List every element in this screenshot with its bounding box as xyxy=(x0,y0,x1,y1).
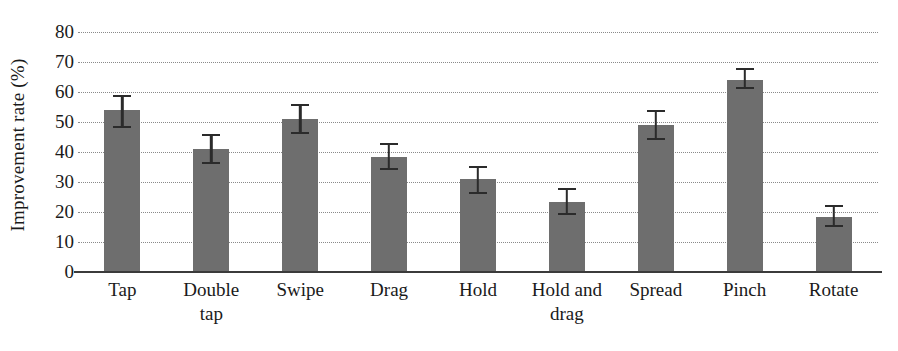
y-axis-title: Improvement rate (%) xyxy=(0,0,36,290)
bar-chart: Improvement rate (%) 80706050403020100 T… xyxy=(0,0,898,351)
error-bar-cap-bottom xyxy=(825,225,843,227)
error-bar-cap-top xyxy=(380,143,398,145)
x-axis-line xyxy=(74,271,882,273)
error-bar xyxy=(380,143,398,170)
error-bar-cap-top xyxy=(202,134,220,136)
x-tick-label-line2: drag xyxy=(512,302,622,326)
error-bar-cap-top xyxy=(113,95,131,97)
error-bar-cap-bottom xyxy=(113,126,131,128)
error-bar-stem xyxy=(388,143,390,170)
x-tick-label-line1: Tap xyxy=(108,279,136,300)
error-bar-cap-bottom xyxy=(291,132,309,134)
y-axis-ticks: 80706050403020100 xyxy=(38,0,74,300)
x-tick-label-line1: Hold and xyxy=(532,279,602,300)
plot-area xyxy=(78,28,878,272)
bar-group xyxy=(78,28,167,272)
x-tick-label-line1: Drag xyxy=(370,279,408,300)
bar xyxy=(282,119,318,272)
bar xyxy=(727,80,763,272)
error-bar-stem xyxy=(299,104,301,134)
y-tick-label: 60 xyxy=(38,82,74,101)
error-bar-cap-bottom xyxy=(202,162,220,164)
error-bar-cap-top xyxy=(825,205,843,207)
x-tick-label-line1: Swipe xyxy=(276,279,324,300)
x-tick-label-line1: Pinch xyxy=(723,279,766,300)
error-bar-stem xyxy=(566,188,568,215)
error-bar xyxy=(291,104,309,134)
error-bar-stem xyxy=(655,110,657,140)
bar xyxy=(371,157,407,273)
error-bar-cap-bottom xyxy=(647,138,665,140)
error-bar xyxy=(113,95,131,128)
error-bar-stem xyxy=(477,166,479,195)
bar-group xyxy=(167,28,256,272)
y-tick-label: 20 xyxy=(38,202,74,221)
y-axis-title-text: Improvement rate (%) xyxy=(7,59,29,232)
error-bar-cap-bottom xyxy=(469,192,487,194)
error-bar-cap-top xyxy=(647,110,665,112)
error-bar-cap-top xyxy=(469,166,487,168)
error-bar-cap-bottom xyxy=(558,213,576,215)
x-tick-label-line2: tap xyxy=(156,302,266,326)
error-bar xyxy=(202,134,220,164)
error-bar xyxy=(469,166,487,195)
bar xyxy=(638,125,674,272)
bar-group xyxy=(256,28,345,272)
y-tick-label: 70 xyxy=(38,52,74,71)
bar-group xyxy=(700,28,789,272)
x-tick-label-line1: Spread xyxy=(629,279,682,300)
bar-group xyxy=(434,28,523,272)
y-tick-label: 10 xyxy=(38,232,74,251)
bar xyxy=(193,149,229,272)
error-bar-cap-top xyxy=(736,68,754,70)
error-bar-cap-bottom xyxy=(736,87,754,89)
x-tick-label-line1: Hold xyxy=(459,279,497,300)
error-bar xyxy=(558,188,576,215)
error-bar-cap-bottom xyxy=(380,168,398,170)
error-bar-stem xyxy=(121,95,123,128)
x-tick-label-line1: Double xyxy=(183,279,239,300)
error-bar-cap-top xyxy=(291,104,309,106)
bar xyxy=(104,110,140,272)
y-tick-label: 30 xyxy=(38,172,74,191)
y-tick-label: 40 xyxy=(38,142,74,161)
bar-group xyxy=(611,28,700,272)
bar-group xyxy=(345,28,434,272)
error-bar-cap-top xyxy=(558,188,576,190)
bar-group xyxy=(789,28,878,272)
x-tick-label-line1: Rotate xyxy=(809,279,859,300)
bar-group xyxy=(522,28,611,272)
error-bar-stem xyxy=(210,134,212,164)
y-tick-label: 50 xyxy=(38,112,74,131)
error-bar xyxy=(825,205,843,228)
error-bar xyxy=(736,68,754,89)
y-tick-label: 80 xyxy=(38,22,74,41)
x-axis-ticks: TapDoubletapSwipeDragHoldHold anddragSpr… xyxy=(78,278,878,348)
x-tick-label: Rotate xyxy=(779,278,889,302)
error-bar xyxy=(647,110,665,140)
